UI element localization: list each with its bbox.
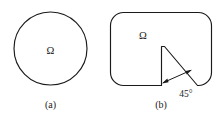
panel-a-omega-label: Ω <box>47 45 55 56</box>
panel-a-group: Ω (a) <box>14 12 87 111</box>
notched-domain-outline <box>111 13 212 86</box>
panel-b-omega-label: Ω <box>139 30 147 41</box>
angle-arrow-head-left-icon <box>162 79 169 84</box>
angle-arrow-head-right-icon <box>185 70 192 75</box>
panel-a-caption: (a) <box>45 99 56 111</box>
panel-b-angle-label: 45° <box>179 89 193 99</box>
panel-b-group: Ω 45° (b) <box>111 13 212 112</box>
panel-b-caption: (b) <box>155 99 167 111</box>
figure-canvas: Ω (a) Ω 45° (b) <box>0 0 219 118</box>
figure-container: Ω (a) Ω 45° (b) <box>0 0 219 118</box>
